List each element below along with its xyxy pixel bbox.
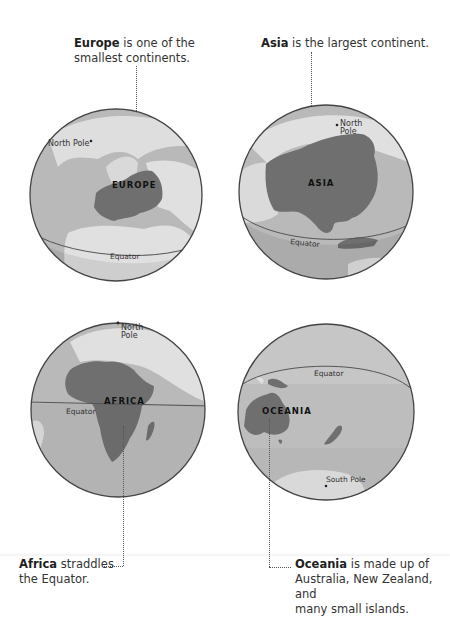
asia-label: ASIA <box>308 178 334 188</box>
oceania-leader-line-horizontal <box>269 567 291 568</box>
asia-caption: Asia is the largest continent. <box>261 36 429 51</box>
north-pole-dot <box>90 140 93 143</box>
europe-caption-bold: Europe <box>74 36 120 50</box>
svg-text:Pole: Pole <box>340 127 357 136</box>
equator-label: Equator <box>66 407 96 416</box>
europe-label: EUROPE <box>112 180 157 190</box>
globe-oceania: Equator OCEANIA South Pole <box>238 324 414 500</box>
europe-caption: Europe is one of the smallest continents… <box>74 36 195 66</box>
africa-label: AFRICA <box>104 396 145 406</box>
svg-text:Pole: Pole <box>121 331 138 340</box>
globe-europe: North Pole EUROPE Equator <box>28 107 204 283</box>
north-pole-label: North Pole <box>48 139 90 148</box>
oceania-label: OCEANIA <box>262 406 312 416</box>
africa-leader-line <box>123 426 124 566</box>
south-pole-label: South Pole <box>326 475 366 484</box>
globe-africa: North Pole AFRICA Equator <box>30 322 206 498</box>
globe-asia: North Pole ASIA Equator <box>238 104 414 280</box>
oceania-caption: Oceania is made up of Australia, New Zea… <box>295 557 450 617</box>
south-pole-dot <box>325 485 328 488</box>
oceania-leader-line <box>269 419 270 567</box>
equator-label: Equator <box>110 252 140 261</box>
equator-label: Equator <box>314 369 344 378</box>
africa-caption: Africa straddles the Equator. <box>19 557 114 587</box>
